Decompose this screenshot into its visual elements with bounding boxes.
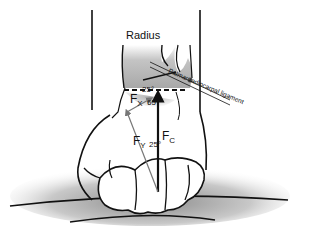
fc-subscript: C (169, 136, 175, 145)
radius-label: Radius (126, 30, 160, 41)
fx-subscript: X (137, 99, 142, 108)
angle-low-label: 25° (149, 141, 161, 149)
angle-mid-label: 65° (147, 99, 159, 107)
radius-bone (122, 45, 192, 88)
angle-top-label: 25° (142, 86, 154, 94)
fx-force-label: FX (130, 93, 143, 105)
fy-subscript: Y (140, 141, 145, 150)
fc-force-label: FC (162, 130, 175, 142)
fy-force-label: FY (133, 135, 146, 147)
